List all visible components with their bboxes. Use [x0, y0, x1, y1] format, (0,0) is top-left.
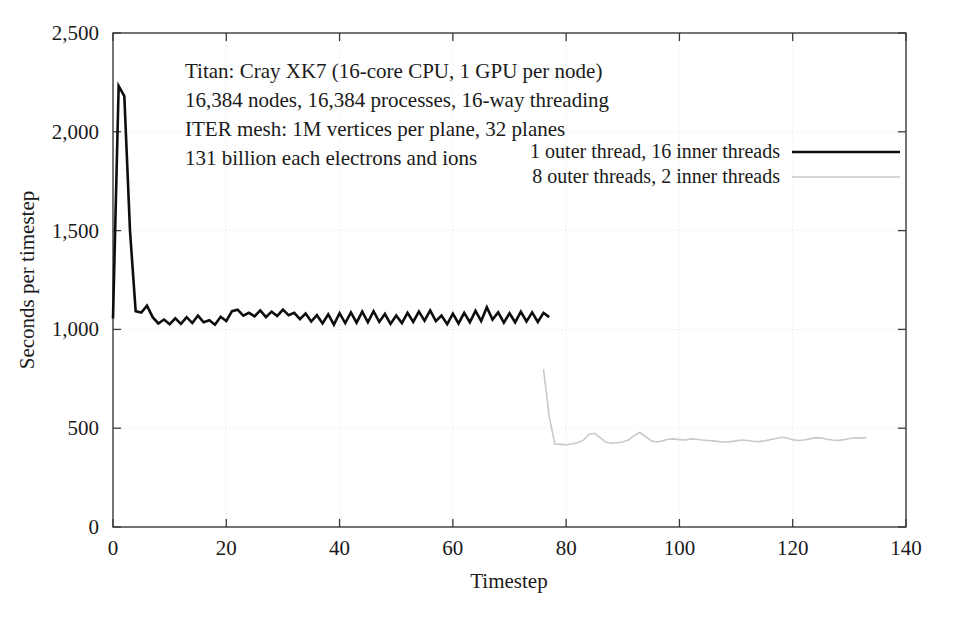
x-tick-label: 60 — [442, 536, 463, 560]
annotation-line: 16,384 nodes, 16,384 processes, 16-way t… — [185, 88, 609, 112]
annotation-line: 131 billion each electrons and ions — [185, 146, 477, 170]
x-tick-label: 140 — [890, 536, 922, 560]
annotation-line: Titan: Cray XK7 (16-core CPU, 1 GPU per … — [185, 59, 602, 83]
y-tick-label: 2,000 — [52, 120, 99, 144]
x-tick-label: 80 — [556, 536, 577, 560]
legend-label: 1 outer thread, 16 inner threads — [530, 140, 780, 162]
legend-label: 8 outer threads, 2 inner threads — [532, 165, 780, 187]
x-tick-label: 40 — [329, 536, 350, 560]
y-tick-label: 1,500 — [52, 219, 99, 243]
y-axis-label: Seconds per timestep — [15, 191, 39, 369]
y-tick-label: 2,500 — [52, 21, 99, 45]
x-tick-label: 0 — [108, 536, 119, 560]
annotation-line: ITER mesh: 1M vertices per plane, 32 pla… — [185, 117, 565, 141]
y-tick-label: 500 — [68, 416, 100, 440]
x-axis-label: Timestep — [470, 569, 547, 593]
seconds-per-timestep-line-chart: 020406080100120140 05001,0001,5002,0002,… — [0, 0, 953, 618]
y-tick-label: 1,000 — [52, 317, 99, 341]
chart-figure: 020406080100120140 05001,0001,5002,0002,… — [0, 0, 953, 618]
x-tick-label: 100 — [664, 536, 696, 560]
y-tick-label: 0 — [89, 515, 100, 539]
x-tick-label: 120 — [777, 536, 809, 560]
x-tick-label: 20 — [216, 536, 237, 560]
